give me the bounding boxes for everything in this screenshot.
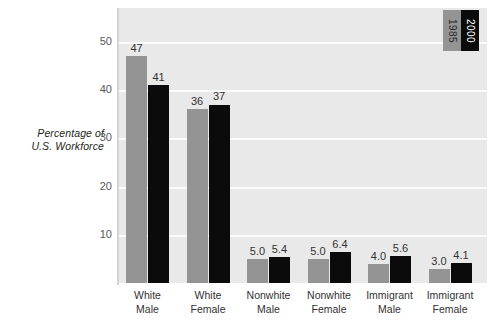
bar-value-2000-white-female: 37: [203, 90, 236, 102]
x-label-white-female: WhiteFemale: [175, 289, 241, 316]
bar-value-2000-white-male: 41: [142, 71, 175, 83]
y-tick-50: 50: [86, 35, 112, 47]
bar-value-1985-white-male: 47: [120, 42, 153, 54]
x-label-line2: Male: [357, 303, 423, 317]
x-label-line2: Female: [175, 303, 241, 317]
y-tick-30: 30: [86, 131, 112, 143]
bar-value-2000-nonwhite-male: 5.4: [263, 243, 296, 255]
x-label-line1: White: [175, 289, 241, 303]
x-label-immigrant-female: ImmigrantFemale: [417, 289, 483, 316]
bar-2000-white-female[interactable]: [209, 105, 230, 284]
y-tick-10: 10: [86, 228, 112, 240]
legend-label-2000: 2000: [465, 19, 476, 43]
legend-item-1985[interactable]: 1985: [443, 10, 461, 51]
x-label-white-male: WhiteMale: [115, 289, 181, 316]
gridline-30: [119, 138, 487, 140]
bar-value-2000-nonwhite-female: 6.4: [324, 238, 357, 250]
x-label-line2: Male: [236, 303, 302, 317]
x-label-nonwhite-male: NonwhiteMale: [236, 289, 302, 316]
bar-1985-white-female[interactable]: [187, 109, 208, 283]
x-label-line1: Nonwhite: [236, 289, 302, 303]
legend-label-1985: 1985: [447, 19, 458, 43]
gridline-10: [119, 235, 487, 237]
plot-area: [119, 8, 487, 283]
x-label-nonwhite-female: NonwhiteFemale: [296, 289, 362, 316]
x-label-immigrant-male: ImmigrantMale: [357, 289, 423, 316]
x-label-line1: Immigrant: [357, 289, 423, 303]
x-label-line2: Male: [115, 303, 181, 317]
bar-value-2000-immigrant-male: 5.6: [384, 242, 417, 254]
bar-chart: Percentage of U.S. Workforce 1020304050 …: [0, 0, 493, 329]
bar-value-2000-immigrant-female: 4.1: [445, 249, 478, 261]
bar-2000-white-male[interactable]: [148, 85, 169, 283]
gridline-40: [119, 90, 487, 92]
bar-1985-immigrant-female[interactable]: [429, 269, 450, 283]
y-tick-40: 40: [86, 83, 112, 95]
gridline-50: [119, 42, 487, 44]
bar-1985-nonwhite-male[interactable]: [247, 259, 268, 283]
legend-item-2000[interactable]: 2000: [461, 10, 479, 51]
y-tick-20: 20: [86, 180, 112, 192]
bar-2000-nonwhite-male[interactable]: [269, 257, 290, 283]
x-label-line1: Immigrant: [417, 289, 483, 303]
bar-1985-nonwhite-female[interactable]: [308, 259, 329, 283]
bar-1985-white-male[interactable]: [126, 56, 147, 283]
x-label-line1: Nonwhite: [296, 289, 362, 303]
gridline-20: [119, 187, 487, 189]
bar-1985-immigrant-male[interactable]: [368, 264, 389, 283]
legend: 1985 2000: [443, 10, 479, 51]
x-label-line2: Female: [417, 303, 483, 317]
x-label-line2: Female: [296, 303, 362, 317]
x-label-line1: White: [115, 289, 181, 303]
